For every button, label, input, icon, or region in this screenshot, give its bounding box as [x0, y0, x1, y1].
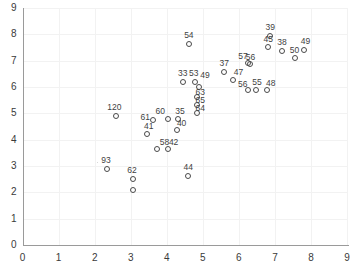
data-point-label: 62 — [127, 166, 136, 175]
gridline-vertical — [59, 8, 60, 245]
data-point — [165, 116, 171, 122]
y-tick-label-3: 3 — [3, 160, 17, 171]
stray-speck — [97, 162, 98, 163]
data-point-label: 50 — [290, 46, 299, 55]
data-point-label: 55 — [252, 78, 261, 87]
data-point-label: 54 — [184, 31, 193, 40]
gridline-vertical — [131, 8, 132, 245]
x-tick-label-8: 8 — [301, 252, 321, 263]
data-point-label: 40 — [177, 119, 186, 128]
gridline-vertical — [311, 8, 312, 245]
data-point-label: 38 — [277, 38, 286, 47]
gridline-horizontal — [23, 61, 347, 62]
data-point — [292, 55, 298, 61]
data-point-label: 120 — [107, 103, 121, 112]
gridline-horizontal — [23, 87, 347, 88]
data-point-label: 49 — [301, 37, 310, 46]
gridline-vertical — [347, 8, 348, 245]
x-tick-label-5: 5 — [193, 252, 213, 263]
data-point-label: 60 — [156, 107, 165, 116]
x-tick-label-4: 4 — [157, 252, 177, 263]
gridline-horizontal — [23, 8, 347, 9]
gridline-vertical — [203, 8, 204, 245]
gridline-vertical — [167, 8, 168, 245]
data-point-label: 33 — [178, 69, 187, 78]
data-point — [130, 187, 136, 193]
x-tick-label-6: 6 — [229, 252, 249, 263]
data-point-label: 49 — [200, 71, 209, 80]
data-point-label: 39 — [266, 23, 275, 32]
y-tick-label-6: 6 — [3, 81, 17, 92]
data-point-label: 58 — [160, 138, 169, 147]
gridline-vertical — [95, 8, 96, 245]
x-axis-line — [23, 245, 349, 246]
y-axis-line — [23, 8, 24, 246]
data-point-label: 44 — [183, 163, 192, 172]
data-point-label: 48 — [266, 79, 275, 88]
data-point — [279, 48, 285, 54]
gridline-vertical — [275, 8, 276, 245]
y-tick-label-1: 1 — [3, 213, 17, 224]
data-point-label: 56 — [238, 80, 247, 89]
data-point-label: 42 — [169, 138, 178, 147]
data-point-label: 53 — [189, 69, 198, 78]
data-point-label: 35 — [175, 107, 184, 116]
data-point-label: 45 — [263, 35, 272, 44]
data-point-label: 47 — [234, 68, 243, 77]
gridline-horizontal — [23, 192, 347, 193]
gridline-vertical — [239, 8, 240, 245]
x-tick-label-1: 1 — [49, 252, 69, 263]
y-tick-label-4: 4 — [3, 134, 17, 145]
y-tick-label-8: 8 — [3, 28, 17, 39]
y-tick-label-5: 5 — [3, 107, 17, 118]
scatter-plot: 0123456789 0123456789 120936261415842603… — [0, 0, 352, 271]
y-tick-label-9: 9 — [3, 2, 17, 13]
data-point-label: 41 — [144, 122, 153, 131]
gridline-horizontal — [23, 140, 347, 141]
y-tick-label-7: 7 — [3, 55, 17, 66]
y-tick-label-2: 2 — [3, 186, 17, 197]
data-point-label: 64 — [195, 104, 204, 113]
x-tick-label-9: 9 — [337, 252, 352, 263]
data-point-label: 37 — [219, 59, 228, 68]
data-point — [130, 176, 136, 182]
gridline-horizontal — [23, 219, 347, 220]
x-tick-label-2: 2 — [85, 252, 105, 263]
data-point — [104, 166, 110, 172]
data-point-label: 56 — [246, 53, 255, 62]
x-tick-label-0: 0 — [13, 252, 33, 263]
data-point — [301, 47, 307, 53]
y-tick-label-0: 0 — [3, 239, 17, 250]
x-tick-label-7: 7 — [265, 252, 285, 263]
data-point — [144, 131, 150, 137]
x-tick-label-3: 3 — [121, 252, 141, 263]
data-point — [230, 77, 236, 83]
data-point-label: 93 — [101, 156, 110, 165]
